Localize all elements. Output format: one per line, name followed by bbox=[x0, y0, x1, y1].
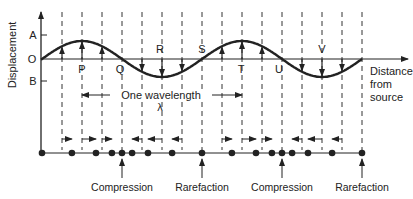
x-axis-label-line-2: from bbox=[370, 78, 392, 90]
particle bbox=[269, 150, 276, 157]
point-label-u: U bbox=[275, 63, 283, 75]
particle bbox=[39, 150, 46, 157]
particle bbox=[289, 150, 296, 157]
sample-guide-lines bbox=[62, 12, 362, 150]
x-axis-label-line-1: Distance bbox=[370, 65, 413, 77]
particle bbox=[145, 150, 152, 157]
particle bbox=[359, 150, 366, 157]
particle bbox=[229, 150, 236, 157]
particle bbox=[329, 150, 336, 157]
rarefaction-label-2: Rarefaction bbox=[335, 181, 389, 193]
point-label-p: P bbox=[78, 63, 85, 75]
particle bbox=[169, 150, 176, 157]
longitudinal-wave-diagram: Displacement A O B Distance from source … bbox=[0, 0, 413, 199]
tick-label-a: A bbox=[29, 29, 37, 41]
rarefaction-label-1: Rarefaction bbox=[175, 181, 229, 193]
point-label-q: Q bbox=[116, 63, 125, 75]
wavelength-symbol: λ bbox=[157, 101, 163, 113]
particle bbox=[119, 150, 126, 157]
point-label-r: R bbox=[156, 43, 164, 55]
tick-label-b: B bbox=[29, 75, 36, 87]
point-label-s: S bbox=[198, 43, 205, 55]
particle bbox=[279, 150, 286, 157]
wavelength-label: One wavelength bbox=[121, 89, 201, 101]
particle bbox=[129, 150, 136, 157]
x-axis-label-line-3: source bbox=[370, 91, 403, 103]
particle bbox=[199, 150, 206, 157]
compression-label-2: Compression bbox=[251, 181, 313, 193]
point-label-v: V bbox=[318, 43, 326, 55]
point-label-t: T bbox=[238, 63, 245, 75]
particle bbox=[305, 150, 312, 157]
particle bbox=[93, 150, 100, 157]
y-axis-label: Displacement bbox=[6, 22, 18, 89]
tick-label-o: O bbox=[28, 53, 37, 65]
compression-label-1: Compression bbox=[91, 181, 153, 193]
particle bbox=[253, 150, 260, 157]
particle bbox=[109, 150, 116, 157]
particle bbox=[69, 150, 76, 157]
